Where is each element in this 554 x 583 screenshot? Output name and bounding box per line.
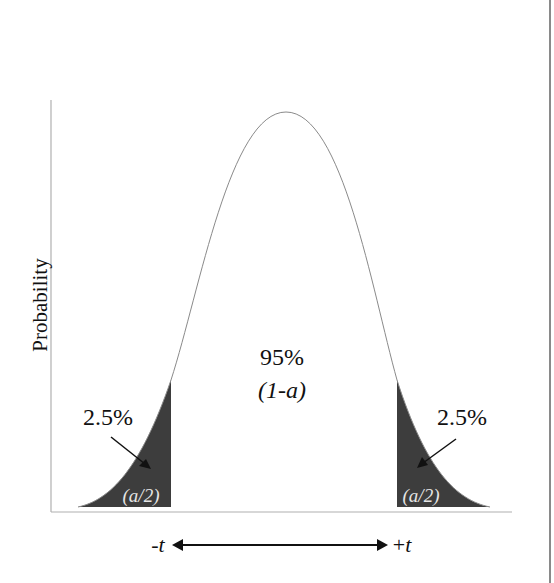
right-page-border [549,0,551,583]
right-pointer-arrow [423,439,456,463]
t-distribution-chart: Probability 95% (1-a) 2.5% (a/2) 2.5% (a… [0,0,554,583]
right-symbol-label: (a/2) [403,485,440,507]
center-symbol-label: (1-a) [258,377,306,403]
neg-t-label: -t [151,532,165,557]
y-axis-label: Probability [28,258,52,352]
left-pointer-arrow [111,437,145,464]
left-range-arrowhead-icon [172,539,183,551]
pos-t-label: +t [393,532,412,557]
bell-curve [78,112,490,507]
right-range-arrowhead-icon [377,539,388,551]
right-percent-label: 2.5% [437,404,487,430]
left-percent-label: 2.5% [83,404,133,430]
center-percent-label: 95% [260,344,304,370]
left-symbol-label: (a/2) [123,485,160,507]
